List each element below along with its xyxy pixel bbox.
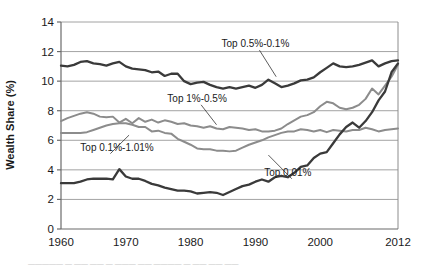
annotation-top-1-to-0-5: Top 1%-0.5%	[167, 93, 227, 104]
y-tick-label: 12	[41, 46, 54, 58]
y-tick-label: 2	[48, 193, 54, 205]
y-tick-label: 10	[41, 75, 54, 87]
wealth-share-line-chart: 02468101214 196019701980199020002012 Top…	[0, 0, 422, 268]
x-tick-label: 1960	[48, 236, 74, 248]
plot-background	[0, 0, 422, 268]
x-tick-label: 2000	[307, 236, 333, 248]
y-tick-label: 4	[48, 164, 55, 176]
x-tick-label: 1970	[113, 236, 139, 248]
x-tick-label: 1990	[243, 236, 269, 248]
annotation-top-0-1-to-1-01: Top 0.1%-1.01%	[80, 142, 153, 153]
annotation-top-0-01: Top 0.01%	[264, 167, 311, 178]
figure-caption-strip: ————— — —— —— — ——— —— ———— — —— —— ——	[0, 259, 422, 268]
figure-caption: ————— — —— —— — ——— —— ———— — —— —— ——	[0, 259, 422, 268]
x-tick-label: 1980	[178, 236, 204, 248]
chart-figure: 02468101214 196019701980199020002012 Top…	[0, 0, 422, 268]
y-tick-label: 14	[41, 16, 54, 28]
y-tick-label: 0	[48, 223, 54, 235]
annotation-top-0-5-to-0-1: Top 0.5%-0.1%	[222, 38, 290, 49]
y-tick-label: 8	[48, 105, 54, 117]
y-axis-title: Wealth Share (%)	[4, 80, 16, 170]
x-tick-label: 2012	[385, 236, 411, 248]
y-tick-label: 6	[48, 134, 54, 146]
